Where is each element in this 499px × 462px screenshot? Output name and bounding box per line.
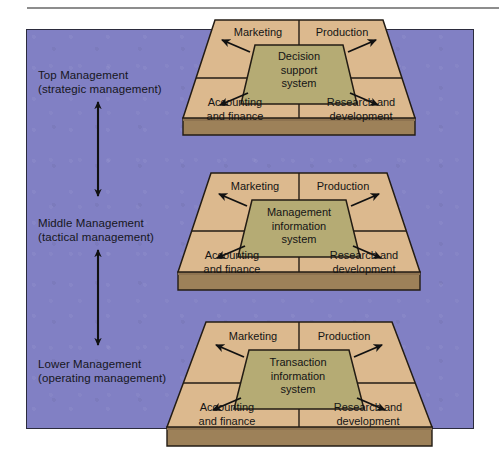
level-label-middle-line2: (tactical management) <box>38 230 154 244</box>
level-label-lower: Lower Management (operating management) <box>38 357 166 385</box>
level-lower-cell-accounting-line1: Accounting <box>182 401 272 415</box>
level-top-system-line3: system <box>254 77 344 91</box>
level-label-top-line2: (strategic management) <box>38 82 162 96</box>
level-top-cell-accounting-line2: and finance <box>190 110 280 124</box>
management-pyramid-figure: Top Management (strategic management) Mi… <box>0 0 499 462</box>
level-lower-system-line1: Transaction <box>250 356 346 370</box>
level-middle-cell-accounting-line1: Accounting <box>187 249 277 263</box>
level-lower-cell-production: Production <box>309 330 379 344</box>
level-middle-cell-research-line2: development <box>318 263 410 277</box>
level-top-cell-accounting: Accounting and finance <box>190 96 280 123</box>
level-middle-cell-accounting-line2: and finance <box>187 263 277 277</box>
level-top-system-label: Decision support system <box>254 50 344 91</box>
level-lower-cell-research: Research and development <box>322 401 414 428</box>
level-top-cell-research: Research and development <box>315 96 407 123</box>
level-middle-system-line3: system <box>252 233 346 247</box>
level-top-cell-research-line1: Research and <box>315 96 407 110</box>
level-lower-cell-research-line2: development <box>322 415 414 429</box>
level-lower-cell-marketing: Marketing <box>220 330 286 344</box>
level-top-cell-research-line2: development <box>315 110 407 124</box>
level-top-system-line1: Decision <box>254 50 344 64</box>
level-middle-system-line1: Management <box>252 206 346 220</box>
level-label-lower-line1: Lower Management <box>38 358 141 370</box>
level-top-cell-marketing: Marketing <box>225 26 291 40</box>
level-top-cell-accounting-line1: Accounting <box>190 96 280 110</box>
level-lower-system-label: Transaction information system <box>250 356 346 397</box>
level-label-top: Top Management (strategic management) <box>38 68 162 96</box>
level-lower-system-line3: system <box>250 383 346 397</box>
level-label-lower-line2: (operating management) <box>38 371 166 385</box>
level-middle-cell-research: Research and development <box>318 249 410 276</box>
level-lower-cell-accounting-line2: and finance <box>182 415 272 429</box>
level-label-middle-line1: Middle Management <box>38 217 144 229</box>
level-middle-cell-research-line1: Research and <box>318 249 410 263</box>
level-middle-cell-production: Production <box>308 180 378 194</box>
level-top-system-line2: support <box>254 64 344 78</box>
level-middle-cell-accounting: Accounting and finance <box>187 249 277 276</box>
level-middle-cell-marketing: Marketing <box>222 180 288 194</box>
level-label-middle: Middle Management (tactical management) <box>38 216 154 244</box>
level-lower-cell-accounting: Accounting and finance <box>182 401 272 428</box>
level-lower-cell-research-line1: Research and <box>322 401 414 415</box>
level-middle-system-line2: information <box>252 220 346 234</box>
level-middle-system-label: Management information system <box>252 206 346 247</box>
level-top-cell-production: Production <box>307 26 377 40</box>
level-lower-system-line2: information <box>250 370 346 384</box>
level-label-top-line1: Top Management <box>38 69 128 81</box>
